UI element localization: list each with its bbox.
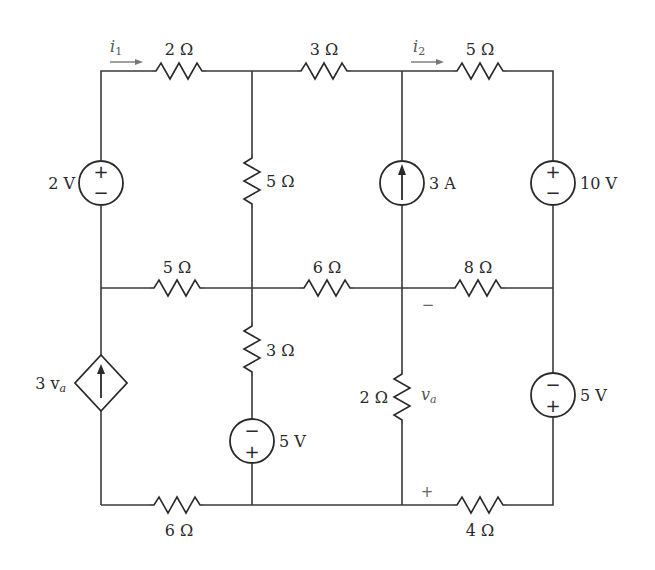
label-r-5ohm-top: 5 Ω xyxy=(466,40,495,59)
minus-sign: − xyxy=(545,374,560,395)
resistor-2ohm-vertical xyxy=(394,370,410,424)
plus-sign: + xyxy=(545,395,560,416)
minus-sign: − xyxy=(545,182,560,203)
label-r-4ohm-bottom: 4 Ω xyxy=(466,521,495,540)
circuit-diagram: + − − + + − − + i1 2 Ω 3 Ω i2 5 Ω 2 V 5 … xyxy=(0,0,655,570)
resistor-5ohm-middle xyxy=(150,280,204,296)
label-va: va xyxy=(421,385,437,406)
label-v-5v-right: 5 V xyxy=(580,386,607,405)
current-arrow-i1 xyxy=(110,59,143,65)
va-plus-sign: + xyxy=(421,483,434,501)
plus-sign: + xyxy=(545,161,560,182)
minus-sign: − xyxy=(93,182,108,203)
va-minus-sign: − xyxy=(422,296,435,314)
label-dependent-source: 3 va xyxy=(35,374,66,395)
label-r-2ohm-top: 2 Ω xyxy=(165,40,194,59)
resistor-8ohm-middle xyxy=(451,280,505,296)
resistor-2ohm-top xyxy=(152,63,206,79)
current-arrow-i2 xyxy=(411,59,444,65)
resistor-3ohm-vertical xyxy=(244,322,260,376)
label-r-5ohm-middle: 5 Ω xyxy=(163,258,192,277)
label-r-3ohm-top: 3 Ω xyxy=(310,40,339,59)
label-r-8ohm-middle: 8 Ω xyxy=(464,258,493,277)
label-r-6ohm-middle: 6 Ω xyxy=(313,258,342,277)
plus-sign: + xyxy=(244,441,259,462)
label-v-10v: 10 V xyxy=(580,174,617,193)
label-r-3ohm-vertical: 3 Ω xyxy=(266,341,295,360)
top-wires xyxy=(101,71,553,160)
label-i2: i2 xyxy=(413,37,425,58)
resistor-5ohm-vertical xyxy=(244,154,260,208)
resistor-5ohm-top xyxy=(453,63,507,79)
label-i-3a: 3 A xyxy=(429,174,456,193)
minus-sign: − xyxy=(244,420,259,441)
resistor-3ohm-top xyxy=(297,63,351,79)
label-r-2ohm-vertical: 2 Ω xyxy=(359,388,388,407)
resistor-4ohm-bottom xyxy=(453,497,507,513)
label-r-5ohm-vertical: 5 Ω xyxy=(266,172,295,191)
resistor-6ohm-bottom xyxy=(150,497,204,513)
label-i1: i1 xyxy=(110,37,122,58)
label-v-5v-col2: 5 V xyxy=(279,432,306,451)
label-v-2v: 2 V xyxy=(48,174,75,193)
label-r-6ohm-bottom: 6 Ω xyxy=(165,521,194,540)
plus-sign: + xyxy=(93,161,108,182)
resistor-6ohm-middle xyxy=(300,280,354,296)
